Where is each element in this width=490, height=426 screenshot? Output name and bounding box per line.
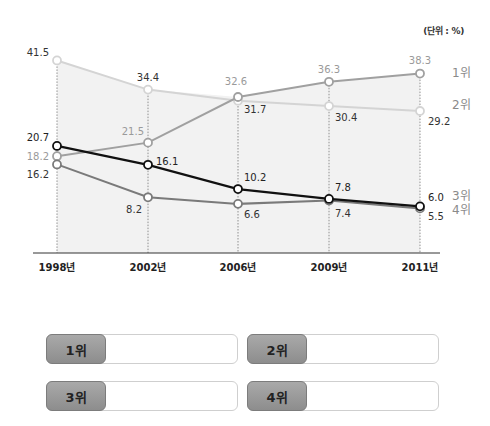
rank-1-input[interactable] — [109, 337, 231, 361]
data-label: 32.6 — [225, 76, 247, 87]
data-label: 8.2 — [126, 204, 142, 215]
answer-box-rank-4: 4위 — [247, 381, 439, 411]
rank-tag-1: 1위 — [46, 334, 106, 364]
x-tick-label: 2006년 — [220, 261, 257, 273]
data-point-4위 — [144, 193, 152, 201]
data-point-3위 — [416, 202, 424, 210]
x-tick-label: 2002년 — [130, 261, 167, 273]
data-point-3위 — [325, 195, 333, 203]
data-label: 21.5 — [122, 126, 144, 137]
data-label: 6.0 — [428, 192, 444, 203]
x-tick-label: 2009년 — [311, 261, 348, 273]
data-label: 36.3 — [318, 64, 340, 75]
data-point-3위 — [53, 142, 61, 150]
rank-tag-4: 4위 — [247, 381, 307, 411]
data-label: 18.2 — [27, 151, 49, 162]
series-end-label: 3위 — [452, 189, 471, 203]
data-label: 34.4 — [137, 72, 159, 83]
data-point-2위 — [144, 86, 152, 94]
rank-2-input[interactable] — [310, 337, 432, 361]
data-point-3위 — [234, 185, 242, 193]
unit-label: (단위 : %) — [423, 24, 464, 37]
answer-box-rank-2: 2위 — [247, 334, 439, 364]
data-label: 16.2 — [27, 169, 49, 180]
data-label: 10.2 — [244, 172, 266, 183]
x-tick-label: 2011년 — [402, 261, 439, 273]
rank-3-input[interactable] — [109, 384, 231, 408]
data-point-2위 — [325, 102, 333, 110]
data-label: 6.6 — [244, 209, 260, 220]
data-point-1위 — [144, 139, 152, 147]
data-point-1위 — [416, 70, 424, 78]
data-label: 16.1 — [156, 156, 178, 167]
data-point-2위 — [53, 56, 61, 64]
data-point-4위 — [53, 160, 61, 168]
series-end-label: 2위 — [452, 98, 471, 112]
data-point-2위 — [416, 107, 424, 115]
data-label: 7.8 — [335, 182, 351, 193]
data-point-4위 — [234, 200, 242, 208]
data-label: 38.3 — [409, 55, 431, 66]
answer-box-rank-1: 1위 — [46, 334, 238, 364]
line-chart: 1998년2002년2006년2009년2011년18.221.532.636.… — [0, 0, 490, 290]
data-point-1위 — [234, 93, 242, 101]
series-end-label: 4위 — [452, 203, 471, 217]
series-end-label: 1위 — [452, 66, 471, 80]
data-label: 5.5 — [428, 211, 444, 222]
data-point-1위 — [53, 152, 61, 160]
rank-4-input[interactable] — [310, 384, 432, 408]
data-label: 30.4 — [335, 112, 357, 123]
data-label: 41.5 — [27, 47, 49, 58]
rank-tag-3: 3위 — [46, 381, 106, 411]
data-label: 20.7 — [27, 132, 49, 143]
data-point-3위 — [144, 161, 152, 169]
data-point-1위 — [325, 78, 333, 86]
data-label: 31.7 — [244, 104, 266, 115]
answer-box-rank-3: 3위 — [46, 381, 238, 411]
rank-tag-2: 2위 — [247, 334, 307, 364]
data-label: 7.4 — [335, 208, 351, 219]
data-label: 29.2 — [428, 116, 450, 127]
x-tick-label: 1998년 — [39, 261, 76, 273]
